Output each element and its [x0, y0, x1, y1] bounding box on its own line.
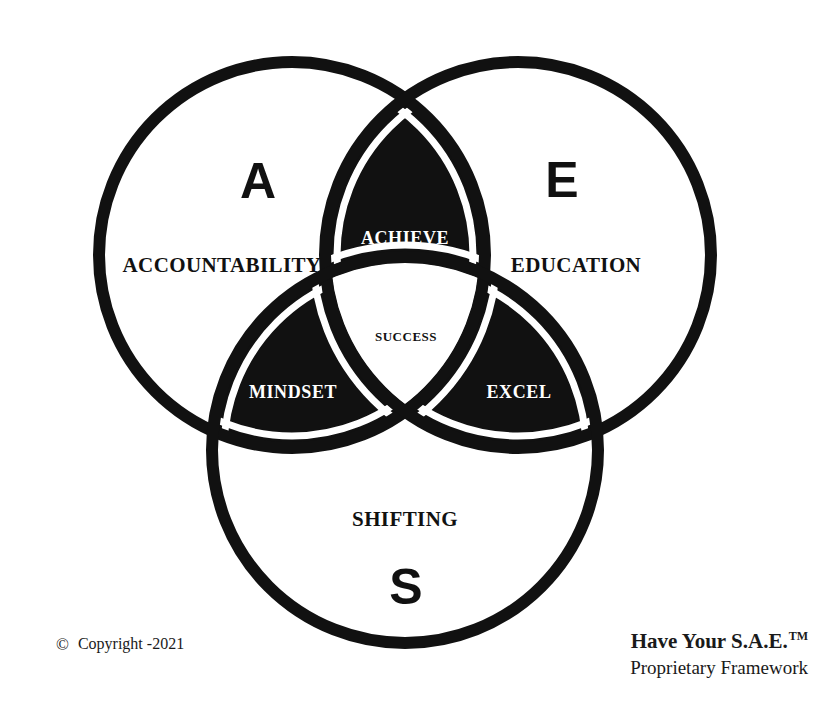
- letter-s: S: [389, 559, 422, 615]
- copyright-block: © Copyright -2021: [56, 635, 184, 653]
- venn-diagram: A E S ACCOUNTABILITY EDUCATION SHIFTING …: [0, 0, 836, 722]
- brand-name-line: Have Your S.A.E.TM: [630, 628, 808, 655]
- letter-e: E: [545, 152, 578, 208]
- label-success: SUCCESS: [375, 329, 437, 344]
- copyright-icon: ©: [56, 636, 69, 653]
- label-shifting: SHIFTING: [352, 507, 458, 531]
- diagram-canvas: A E S ACCOUNTABILITY EDUCATION SHIFTING …: [0, 0, 836, 722]
- label-mindset: MINDSET: [249, 382, 337, 402]
- letter-a: A: [240, 153, 276, 209]
- brand-subtitle: Proprietary Framework: [630, 656, 808, 680]
- label-accountability: ACCOUNTABILITY: [123, 253, 322, 277]
- label-education: EDUCATION: [511, 253, 641, 277]
- label-achieve: ACHIEVE: [361, 228, 449, 248]
- copyright-text: Copyright -2021: [78, 635, 184, 653]
- brand-name-text: Have Your S.A.E.: [631, 629, 788, 653]
- label-excel: EXCEL: [486, 382, 551, 402]
- brand-block: Have Your S.A.E.TM Proprietary Framework: [630, 628, 808, 680]
- trademark-symbol: TM: [789, 629, 808, 643]
